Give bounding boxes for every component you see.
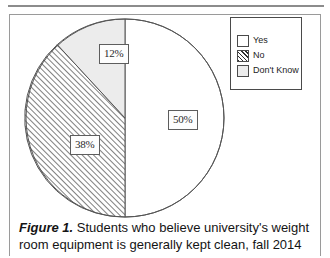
legend-label-no: No bbox=[253, 51, 265, 60]
legend-swatch-no-icon bbox=[237, 50, 249, 62]
legend-label-dont-know: Don't Know bbox=[253, 66, 299, 75]
figure-caption-line-2: room equipment is generally kept clean, … bbox=[19, 236, 311, 253]
figure-caption-label: Figure 1. bbox=[19, 220, 77, 235]
pie-label-dont-know: 12% bbox=[99, 44, 129, 64]
legend-item-no[interactable]: No bbox=[237, 49, 265, 62]
pie-label-yes: 50% bbox=[168, 110, 198, 130]
legend-item-dont-know[interactable]: Don't Know bbox=[237, 64, 299, 77]
chart-legend: Yes No Don't Know bbox=[230, 17, 302, 90]
legend-item-yes[interactable]: Yes bbox=[237, 34, 268, 47]
legend-label-yes: Yes bbox=[253, 36, 268, 45]
page-top-rule bbox=[8, 5, 324, 7]
figure-caption-text-1: Students who believe university's weight bbox=[77, 220, 309, 235]
figure-caption: Figure 1. Students who believe universit… bbox=[19, 219, 311, 253]
legend-swatch-yes-icon bbox=[237, 35, 249, 47]
legend-swatch-dont-know-icon bbox=[237, 65, 249, 77]
figure-caption-line-1: Figure 1. Students who believe universit… bbox=[19, 219, 311, 236]
pie-label-no: 38% bbox=[70, 135, 100, 155]
